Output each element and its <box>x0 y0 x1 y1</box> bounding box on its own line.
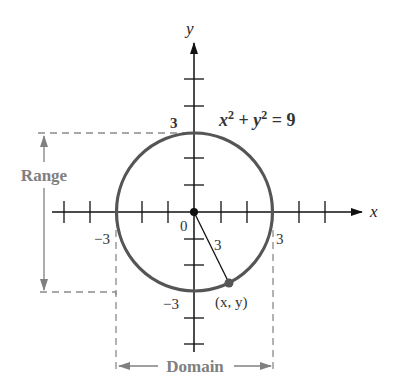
x-axis-label: x <box>369 202 378 221</box>
radius-line <box>194 212 229 283</box>
y-axis-label: y <box>184 19 194 38</box>
y-neg-tick-label: −3 <box>163 296 179 312</box>
radius-label: 3 <box>214 237 222 253</box>
circle-equation: x2 + y2 = 9 <box>218 108 296 130</box>
y-pos-tick-label: 3 <box>170 115 178 131</box>
axes <box>52 43 362 352</box>
domain-label: Domain <box>166 357 224 376</box>
point-label: (x, y) <box>215 294 248 311</box>
point-on-circle <box>225 279 234 288</box>
x-neg-tick-label: −3 <box>94 231 110 247</box>
equation-plus: + <box>234 110 253 130</box>
domain-indicator: Domain <box>119 357 271 376</box>
range-label: Range <box>21 166 68 185</box>
equation-rhs: = 9 <box>267 110 295 130</box>
x-pos-tick-label: 3 <box>276 231 284 247</box>
origin-label: 0 <box>180 218 188 234</box>
range-bottom-guide <box>40 292 116 300</box>
dashed-guides <box>38 133 273 372</box>
circle-diagram: Range Domain y x 0 <box>0 0 399 392</box>
range-indicator: Range <box>21 136 68 290</box>
equation-x: x <box>218 110 228 130</box>
origin-point <box>190 208 198 216</box>
